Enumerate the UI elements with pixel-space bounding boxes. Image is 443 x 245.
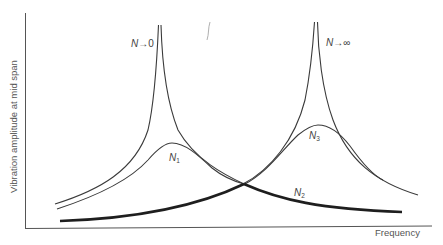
- label-n2: N2: [294, 187, 305, 199]
- x-axis: [25, 226, 432, 229]
- curve-n1: [57, 143, 244, 209]
- x-axis-label: Frequency: [375, 227, 420, 238]
- y-axis-label: Vibration amplitude at mid span: [8, 60, 19, 193]
- label-n1: N1: [169, 152, 180, 164]
- label-n3: N3: [309, 130, 320, 142]
- curve-n2-left: [60, 184, 244, 221]
- label-n-to-0: N→0: [131, 38, 154, 49]
- scan-artifact: [207, 22, 210, 40]
- curve-n2: [244, 184, 402, 212]
- chart-canvas: N→0 N→∞ N1 N3 N2 Frequency Vibration amp…: [0, 0, 443, 245]
- curve-n-to-0: [55, 25, 159, 204]
- curve-n-to-inf-left: [243, 22, 315, 184]
- label-n-to-inf: N→∞: [326, 37, 350, 48]
